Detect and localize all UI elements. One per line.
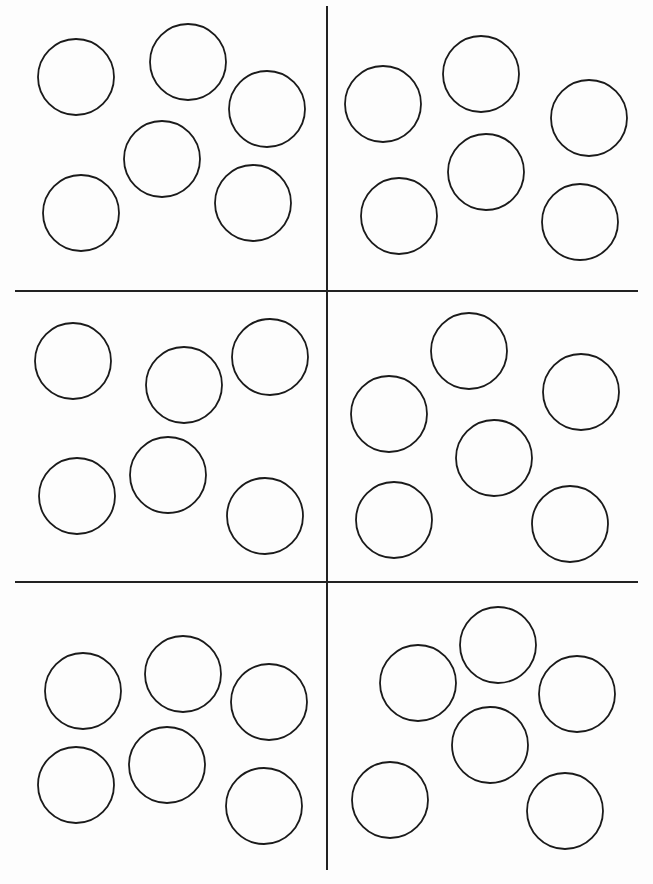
circle-icon [527, 773, 603, 849]
circle-icon [452, 707, 528, 783]
circle-icon [443, 36, 519, 112]
circle-icon [38, 39, 114, 115]
circle-icon [532, 486, 608, 562]
circle-icon [539, 656, 615, 732]
circle-icon [227, 478, 303, 554]
circle-icon [45, 653, 121, 729]
circle-icon [345, 66, 421, 142]
circle-icon [542, 184, 618, 260]
circle-icon [43, 175, 119, 251]
circle-icon [145, 636, 221, 712]
circle-icon [356, 482, 432, 558]
panel-3 [35, 319, 308, 554]
panel-1 [38, 24, 305, 251]
circle-icon [232, 319, 308, 395]
circle-icon [226, 768, 302, 844]
circle-icon [380, 645, 456, 721]
circle-icon [460, 607, 536, 683]
circle-icon [456, 420, 532, 496]
panel-2 [345, 36, 627, 260]
panel-4 [351, 313, 619, 562]
panel-5 [38, 636, 307, 844]
circle-icon [551, 80, 627, 156]
panel-6 [352, 607, 615, 849]
circle-icon [35, 323, 111, 399]
circle-icon [146, 347, 222, 423]
circle-icon [361, 178, 437, 254]
circle-icon [129, 727, 205, 803]
circle-icon [352, 762, 428, 838]
circle-icon [124, 121, 200, 197]
circle-icon [150, 24, 226, 100]
circle-icon [351, 376, 427, 452]
circle-icon [431, 313, 507, 389]
circle-icon [231, 664, 307, 740]
circle-icon [130, 437, 206, 513]
worksheet [0, 0, 653, 884]
circle-icon [38, 747, 114, 823]
circle-icon [229, 71, 305, 147]
circle-icon [543, 354, 619, 430]
circle-icon [39, 458, 115, 534]
circle-icon [448, 134, 524, 210]
circle-icon [215, 165, 291, 241]
worksheet-canvas [0, 0, 653, 884]
